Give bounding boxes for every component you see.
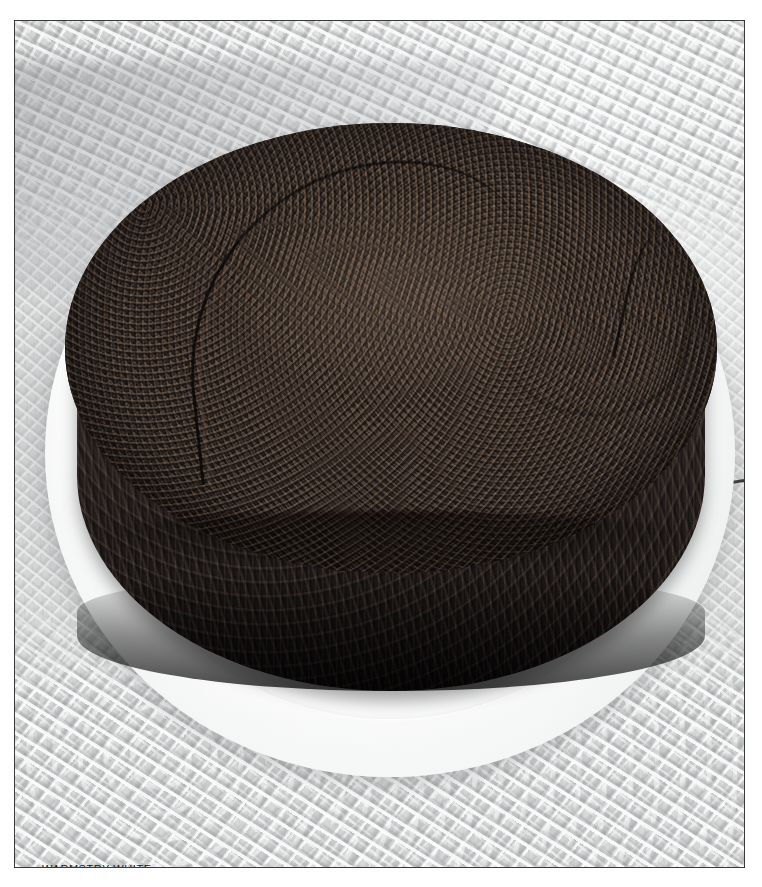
cake	[51, 109, 731, 689]
cake-base-shadow	[77, 571, 705, 691]
cake-top-side-seam	[91, 511, 691, 567]
photograph-frame: WARMSTRY WHITE	[14, 20, 745, 868]
cake-top-surface	[65, 123, 717, 573]
page-root: WARMSTRY WHITE	[0, 0, 762, 887]
photo-caption: WARMSTRY WHITE	[42, 862, 152, 868]
